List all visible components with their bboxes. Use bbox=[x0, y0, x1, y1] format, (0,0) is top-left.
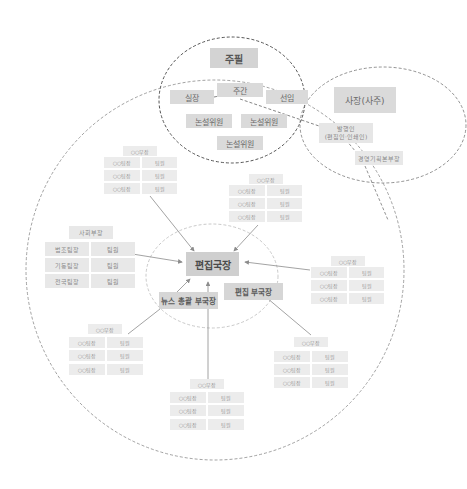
director-box: 실장 bbox=[170, 90, 214, 104]
team-member: 팀원 bbox=[107, 350, 143, 361]
team-member: 팀원 bbox=[142, 157, 177, 168]
team-member: 팀원 bbox=[142, 170, 177, 181]
team-leader: ○○팀장 bbox=[170, 419, 206, 430]
team-member: 팀원 bbox=[312, 364, 348, 375]
team-member: 팀원 bbox=[312, 377, 348, 388]
team-leader: ○○팀장 bbox=[170, 405, 206, 416]
team-leader: ○○팀장 bbox=[274, 377, 310, 388]
editor-in-chief-box: 편집국장 bbox=[186, 252, 239, 276]
team-member: 팀원 bbox=[267, 198, 302, 209]
team-leader: ○○팀장 bbox=[274, 351, 310, 362]
editorial-writer-box: 논설위원 bbox=[241, 114, 287, 128]
president-box: 사장(사주) bbox=[334, 87, 396, 113]
team-member: 팀원 bbox=[349, 267, 384, 278]
team-leader: ○○팀장 bbox=[229, 198, 265, 209]
senior-box: 선임 bbox=[266, 90, 308, 104]
publisher-subtitle: (편집인·인쇄인) bbox=[325, 133, 368, 141]
team-member: 팀원 bbox=[208, 419, 244, 430]
chief-editor-box: 주필 bbox=[210, 48, 258, 68]
team-member: 팀원 bbox=[349, 293, 384, 304]
team-leader: ○○팀장 bbox=[104, 183, 140, 194]
team-leader: ○○팀장 bbox=[311, 280, 347, 291]
team-leader: 전국팀장 bbox=[45, 274, 89, 288]
editorial-writer-box: 논설위원 bbox=[217, 136, 263, 150]
team-member: 팀원 bbox=[312, 351, 348, 362]
department-head: ○○부장 bbox=[190, 379, 224, 389]
deputy-news-box: 뉴스 총괄 부국장 bbox=[159, 292, 218, 309]
publisher-box: 발행인 (편집인·인쇄인) bbox=[319, 123, 373, 143]
team-member: 팀원 bbox=[142, 183, 177, 194]
team-leader: ○○팀장 bbox=[311, 267, 347, 278]
team-member: 팀원 bbox=[91, 242, 135, 256]
team-member: 팀원 bbox=[267, 185, 302, 196]
department-head: 사회부장 bbox=[69, 226, 113, 239]
team-leader: ○○팀장 bbox=[229, 185, 265, 196]
department-head: ○○부장 bbox=[88, 324, 122, 334]
team-member: 팀원 bbox=[349, 280, 384, 291]
team-leader: ○○팀장 bbox=[311, 293, 347, 304]
team-leader: 기동팀장 bbox=[45, 258, 89, 272]
department-head: ○○부장 bbox=[249, 174, 283, 184]
department-head: ○○부장 bbox=[331, 256, 365, 266]
publisher-title: 발행인 bbox=[337, 125, 355, 133]
team-member: 팀원 bbox=[267, 211, 302, 222]
team-leader: ○○팀장 bbox=[69, 350, 105, 361]
team-leader: ○○팀장 bbox=[69, 364, 105, 375]
management-planning-box: 경영기획본부장 bbox=[355, 151, 403, 165]
team-member: 팀원 bbox=[91, 258, 135, 272]
department-head: ○○부장 bbox=[123, 146, 157, 156]
team-leader: ○○팀장 bbox=[274, 364, 310, 375]
department-head: ○○부장 bbox=[294, 337, 328, 347]
team-leader: ○○팀장 bbox=[104, 157, 140, 168]
weekly-box: 주간 bbox=[217, 83, 263, 97]
team-leader: 법조팀장 bbox=[45, 242, 89, 256]
team-member: 팀원 bbox=[208, 405, 244, 416]
editorial-writer-box: 논설위원 bbox=[186, 114, 232, 128]
team-leader: ○○팀장 bbox=[69, 337, 105, 348]
team-member: 팀원 bbox=[107, 337, 143, 348]
team-leader: ○○팀장 bbox=[229, 211, 265, 222]
team-member: 팀원 bbox=[208, 392, 244, 403]
core-boundary bbox=[146, 224, 278, 328]
team-leader: ○○팀장 bbox=[170, 392, 206, 403]
team-leader: ○○팀장 bbox=[104, 170, 140, 181]
team-member: 팀원 bbox=[91, 274, 135, 288]
team-member: 팀원 bbox=[107, 364, 143, 375]
deputy-edit-box: 편집 부국장 bbox=[224, 283, 283, 300]
